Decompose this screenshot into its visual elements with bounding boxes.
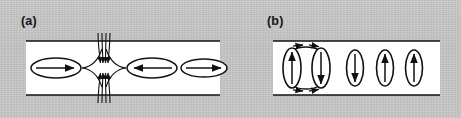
figure-root: (a) — [0, 0, 461, 118]
flux-tube-4 — [377, 50, 394, 86]
panel-b-diagram — [265, 33, 450, 105]
flux-tube-1 — [283, 48, 301, 88]
flux-tube-5 — [406, 50, 423, 86]
panel-b-label: (b) — [267, 15, 284, 28]
flux-tube-right — [181, 59, 227, 77]
panel-a-label: (a) — [21, 15, 37, 28]
flux-tube-2 — [312, 48, 330, 88]
flux-tube-left — [31, 58, 81, 78]
panel-a-diagram — [18, 33, 230, 105]
flux-tube-middle — [127, 58, 177, 78]
flux-tube-3 — [347, 50, 364, 86]
